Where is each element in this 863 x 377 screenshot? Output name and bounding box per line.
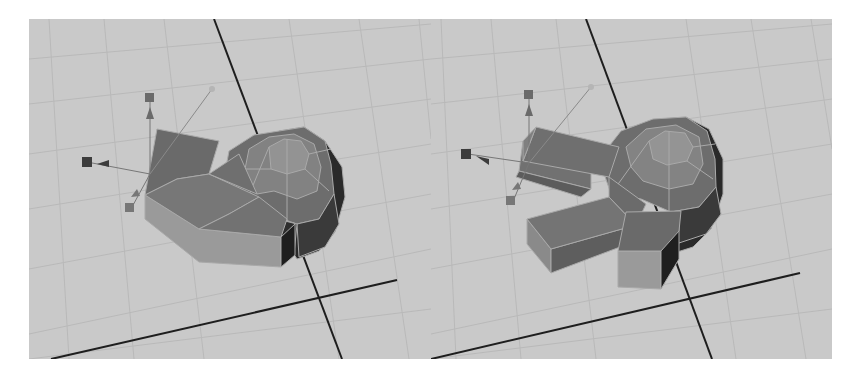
- x-axis-arrow-icon: [97, 160, 109, 167]
- z-axis-cube-icon[interactable]: [125, 203, 134, 212]
- z-axis-cube-icon[interactable]: [506, 196, 515, 205]
- y-axis-arrow-icon: [146, 107, 154, 119]
- x-axis-handle-line: [468, 154, 529, 163]
- x-axis-cube-icon[interactable]: [461, 149, 471, 159]
- y-axis-arrow-icon: [525, 104, 533, 116]
- x-axis-arrow-icon: [476, 156, 489, 165]
- extruded-arm-front[interactable]: [618, 211, 681, 289]
- x-axis-handle-line: [87, 162, 150, 174]
- scene-after: [431, 19, 832, 359]
- y-axis-cube-icon[interactable]: [145, 93, 154, 102]
- scene-before: [29, 19, 431, 359]
- viewport-after[interactable]: [431, 19, 832, 359]
- view-handle-icon[interactable]: [209, 86, 215, 92]
- extruded-arm-upper[interactable]: [516, 127, 619, 197]
- x-axis-cube-icon[interactable]: [82, 157, 92, 167]
- viewport-strip: [29, 19, 832, 359]
- view-handle-icon[interactable]: [588, 84, 594, 90]
- viewport-before[interactable]: [29, 19, 431, 359]
- z-axis-arrow-icon: [131, 189, 140, 197]
- z-axis-arrow-icon: [512, 182, 521, 190]
- y-axis-cube-icon[interactable]: [524, 90, 533, 99]
